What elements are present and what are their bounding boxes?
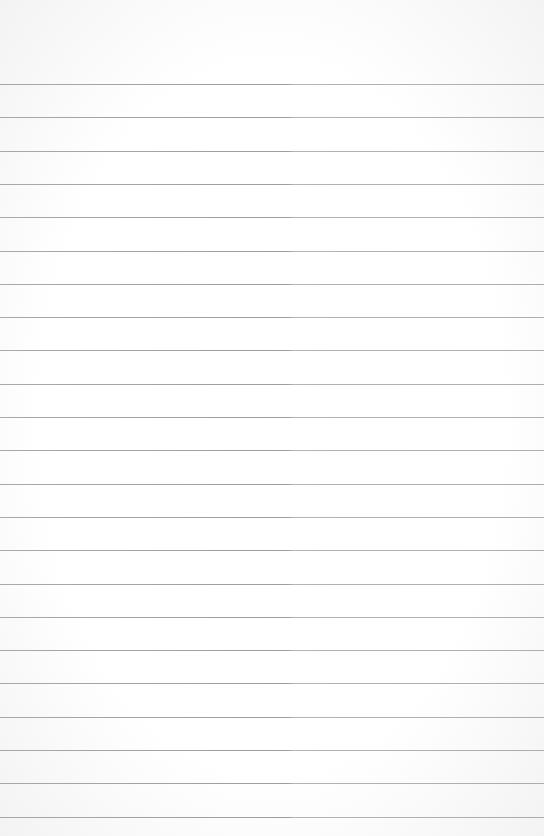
ruled-line xyxy=(0,151,544,152)
ruled-line xyxy=(0,717,544,718)
ruled-line xyxy=(0,650,544,651)
ruled-line xyxy=(0,750,544,751)
ruled-line xyxy=(0,251,544,252)
lined-paper-sheet xyxy=(0,0,544,836)
ruled-line xyxy=(0,417,544,418)
ruled-line xyxy=(0,484,544,485)
ruled-line xyxy=(0,184,544,185)
ruled-line xyxy=(0,617,544,618)
ruled-line xyxy=(0,517,544,518)
ruled-line xyxy=(0,117,544,118)
ruled-line xyxy=(0,284,544,285)
ruled-line xyxy=(0,817,544,818)
ruled-line xyxy=(0,350,544,351)
ruled-line xyxy=(0,217,544,218)
ruled-line xyxy=(0,450,544,451)
ruled-line xyxy=(0,84,544,85)
ruled-line xyxy=(0,783,544,784)
ruled-line xyxy=(0,384,544,385)
ruled-line xyxy=(0,317,544,318)
ruled-line xyxy=(0,550,544,551)
ruled-line xyxy=(0,683,544,684)
ruled-line xyxy=(0,584,544,585)
